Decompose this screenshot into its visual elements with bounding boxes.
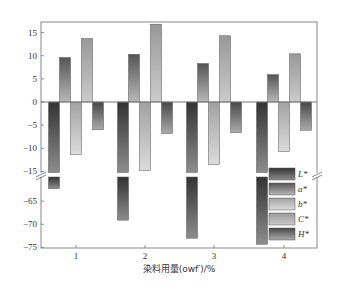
bar — [60, 58, 71, 102]
bar-upper-segment — [118, 102, 129, 172]
y-tick-label: −70 — [23, 219, 38, 229]
y-tick-label: −65 — [23, 196, 38, 206]
bar — [93, 102, 104, 130]
bar — [209, 102, 220, 165]
legend-label: L* — [297, 169, 308, 179]
bar — [290, 54, 301, 102]
x-axis: 1234 — [74, 245, 287, 261]
x-tick-label: 2 — [143, 251, 148, 261]
bar-lower-segment — [49, 177, 60, 189]
bar — [301, 102, 312, 130]
y-tick-label: −75 — [23, 242, 38, 252]
y-tick-label: −5 — [27, 120, 37, 130]
y-tick-label: 15 — [28, 28, 38, 38]
legend-label: C* — [298, 214, 309, 224]
bar — [82, 39, 93, 102]
bar-upper-segment — [49, 102, 60, 172]
legend: L*a*b*C*H* — [269, 168, 309, 240]
y-tick-label: 10 — [28, 51, 38, 61]
bar — [231, 102, 242, 133]
bars — [49, 24, 312, 244]
y-tick-label: −15 — [23, 166, 38, 176]
legend-swatch — [269, 183, 295, 195]
bar — [71, 102, 82, 154]
legend-label: a* — [298, 184, 308, 194]
x-tick-label: 1 — [74, 251, 79, 261]
y-tick-label: 5 — [33, 74, 38, 84]
legend-swatch — [269, 168, 295, 180]
x-axis-title: 染料用量(owf′)/% — [143, 263, 216, 274]
bar — [151, 24, 162, 102]
bar-lower-segment — [257, 177, 268, 244]
bar — [268, 75, 279, 102]
y-tick-label: 0 — [33, 97, 38, 107]
y-tick-label: −10 — [23, 143, 38, 153]
x-tick-label: 3 — [212, 251, 217, 261]
bar — [129, 54, 140, 102]
bar — [220, 36, 231, 102]
bar-chart: 151050−5−10−15−65−70−75 1234 染料用量(owf′)/… — [0, 0, 339, 288]
legend-label: H* — [297, 229, 309, 239]
bar — [279, 102, 290, 152]
bar-upper-segment — [187, 102, 198, 172]
x-tick-label: 4 — [282, 251, 287, 261]
bar — [198, 64, 209, 102]
legend-swatch — [269, 198, 295, 210]
bar — [162, 102, 173, 133]
bar-lower-segment — [187, 177, 198, 238]
bar-lower-segment — [118, 177, 129, 220]
legend-swatch — [269, 213, 295, 225]
bar-upper-segment — [257, 102, 268, 172]
legend-swatch — [269, 228, 295, 240]
legend-label: b* — [298, 199, 308, 209]
bar — [140, 102, 151, 171]
